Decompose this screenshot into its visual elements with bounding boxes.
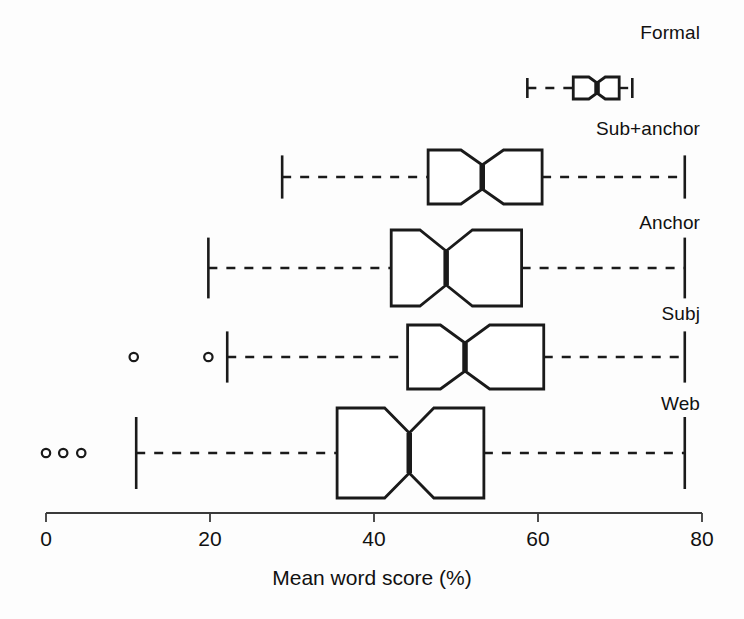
- boxes-layer: [42, 77, 685, 498]
- x-tick-label-40: 40: [362, 527, 385, 551]
- group-label-anchor: Anchor: [639, 212, 700, 234]
- x-tick-label-0: 0: [40, 527, 52, 551]
- x-axis-title: Mean word score (%): [0, 566, 744, 590]
- box-outline: [428, 150, 542, 204]
- outlier-point-1: [204, 353, 212, 361]
- box-group-anchor: [208, 230, 684, 306]
- outlier-point-0: [42, 449, 50, 457]
- outlier-point-0: [130, 353, 138, 361]
- outlier-point-2: [77, 449, 85, 457]
- box-group-web: [42, 408, 685, 498]
- x-tick-label-80: 80: [690, 527, 713, 551]
- x-tick-label-60: 60: [526, 527, 549, 551]
- box-group-sub-anchor: [282, 150, 685, 204]
- group-label-formal: Formal: [640, 22, 700, 44]
- group-label-subj: Subj: [662, 303, 700, 325]
- x-tick-label-20: 20: [198, 527, 221, 551]
- box-group-formal: [527, 77, 632, 99]
- group-label-sub-anchor: Sub+anchor: [596, 118, 700, 140]
- outlier-point-1: [59, 449, 67, 457]
- box-outline: [391, 230, 521, 306]
- box-group-subj: [130, 325, 685, 389]
- box-outline: [408, 325, 544, 389]
- boxplot-figure: Formal Sub+anchor Anchor Subj Web 020406…: [0, 0, 744, 619]
- group-label-web: Web: [661, 393, 700, 415]
- x-axis-line-layer: [46, 513, 702, 522]
